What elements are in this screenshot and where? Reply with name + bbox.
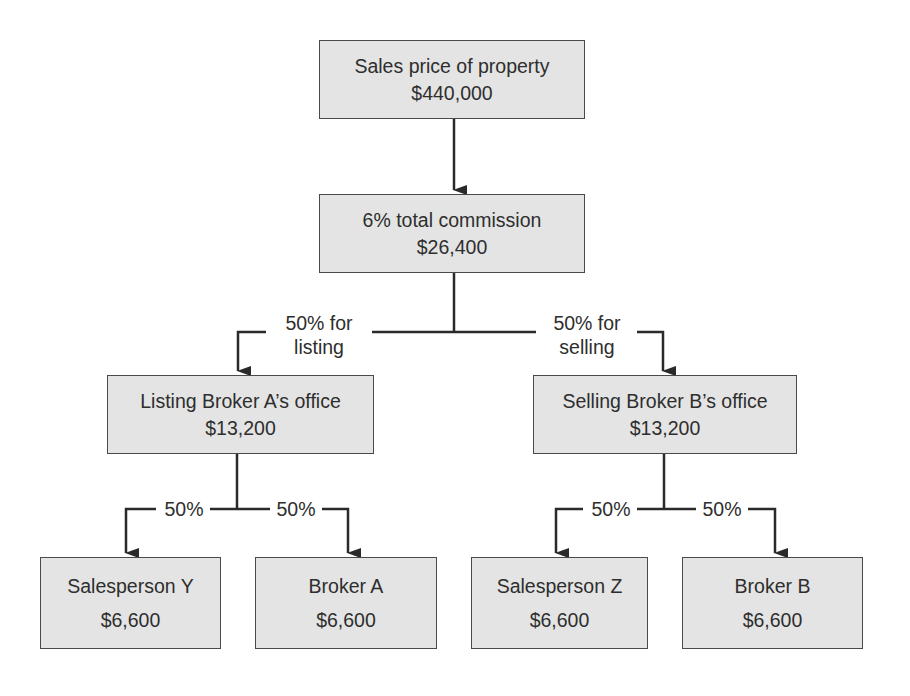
edge-label-listing: 50% for listing (268, 311, 370, 359)
edge-label-broker-b: 50% (696, 497, 748, 521)
node-title: Broker B (735, 569, 811, 603)
node-salesperson-y: Salesperson Y $6,600 (40, 557, 221, 649)
edge-label-line: 50% for (268, 311, 370, 335)
node-salesperson-z: Salesperson Z $6,600 (471, 557, 648, 649)
node-broker-b: Broker B $6,600 (682, 557, 863, 649)
node-amount: $440,000 (411, 80, 492, 107)
node-amount: $13,200 (630, 415, 701, 442)
node-sales-price: Sales price of property $440,000 (319, 40, 585, 119)
edge-label-salesperson-y: 50% (158, 497, 210, 521)
node-title: Selling Broker B’s office (562, 388, 767, 415)
edge-label-selling: 50% for selling (538, 311, 636, 359)
edge-label-broker-a: 50% (270, 497, 322, 521)
node-amount: $26,400 (417, 234, 488, 261)
node-amount: $6,600 (316, 603, 376, 637)
edge-label-line: selling (538, 335, 636, 359)
node-title: Broker A (309, 569, 384, 603)
node-amount: $13,200 (205, 415, 276, 442)
node-title: Listing Broker A’s office (140, 388, 341, 415)
node-title: Salesperson Z (497, 569, 623, 603)
edge-label-line: listing (268, 335, 370, 359)
node-broker-a: Broker A $6,600 (255, 557, 437, 649)
node-total-commission: 6% total commission $26,400 (319, 194, 585, 273)
node-selling-office: Selling Broker B’s office $13,200 (533, 375, 797, 454)
node-amount: $6,600 (743, 603, 803, 637)
edge-label-line: 50% for (538, 311, 636, 335)
node-title: Sales price of property (354, 53, 549, 80)
node-amount: $6,600 (101, 603, 161, 637)
node-title: Salesperson Y (67, 569, 193, 603)
node-title: 6% total commission (363, 207, 542, 234)
node-listing-office: Listing Broker A’s office $13,200 (107, 375, 374, 454)
edge-label-salesperson-z: 50% (585, 497, 637, 521)
node-amount: $6,600 (530, 603, 590, 637)
